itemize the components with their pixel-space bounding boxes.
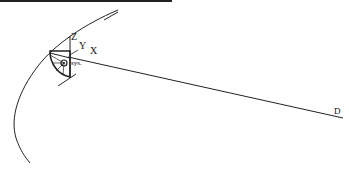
label-y: Y — [79, 40, 86, 51]
antenna-dish — [50, 51, 70, 77]
diagram-canvas: Z Y X sys. D — [0, 0, 349, 169]
label-coord-sys: sys. — [71, 59, 82, 67]
label-z: Z — [71, 31, 77, 42]
orbit-arc — [14, 10, 118, 163]
y-axis-line — [70, 50, 78, 55]
line-of-sight — [68, 57, 343, 118]
label-point-d: D — [334, 106, 341, 116]
label-x: X — [90, 45, 98, 56]
